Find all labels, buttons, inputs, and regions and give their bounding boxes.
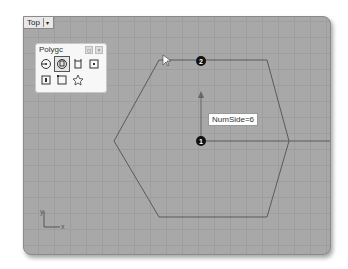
guide-arrow-icon bbox=[198, 91, 204, 98]
polygon-center-icon bbox=[40, 58, 52, 70]
svg-text:1: 1 bbox=[199, 138, 203, 145]
polygon-center-button[interactable] bbox=[39, 57, 53, 71]
rectangle-corner-button[interactable] bbox=[55, 73, 69, 87]
polygon-edge-button[interactable] bbox=[39, 73, 53, 87]
mouse-cursor-icon bbox=[163, 55, 171, 66]
rectangle-corner-icon bbox=[56, 74, 68, 86]
vertex-marker: 2 bbox=[196, 56, 206, 66]
polygon-circumscribed-button[interactable] bbox=[71, 57, 85, 71]
world-axes-icon: y x bbox=[38, 207, 68, 231]
svg-text:2: 2 bbox=[199, 58, 203, 65]
svg-text:y: y bbox=[40, 208, 44, 216]
center-marker: 1 bbox=[196, 136, 206, 146]
svg-text:x: x bbox=[61, 223, 65, 230]
rectangle-center-button[interactable] bbox=[87, 57, 101, 71]
polygon-edge-center-button[interactable] bbox=[55, 57, 69, 71]
polygon-circumscribed-icon bbox=[72, 58, 84, 70]
polygon-toolbar-palette[interactable]: Polygc ◻ × bbox=[35, 43, 107, 93]
star-polygon-button[interactable] bbox=[71, 73, 85, 87]
top-viewport[interactable]: Top ▾ 1 2 NumSide=6 Polygc ◻ × bbox=[23, 16, 331, 255]
star-polygon-icon bbox=[72, 74, 84, 86]
palette-title: Polygc bbox=[39, 45, 63, 54]
rectangle-center-icon bbox=[88, 58, 100, 70]
palette-restore-button[interactable]: ◻ bbox=[85, 46, 93, 54]
polygon-edge-center-icon bbox=[56, 58, 68, 70]
polygon-edge-icon bbox=[40, 74, 52, 86]
palette-close-button[interactable]: × bbox=[95, 46, 103, 54]
numside-tooltip: NumSide=6 bbox=[208, 113, 258, 126]
